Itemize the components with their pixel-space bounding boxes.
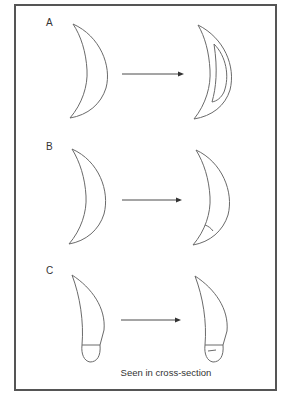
- crescent-after-a: [194, 25, 232, 119]
- arrow-c: [121, 318, 181, 323]
- panel-c: C: [46, 265, 227, 362]
- figure-caption: Seen in cross-section: [121, 367, 212, 378]
- tooth-before-c: [72, 275, 104, 362]
- arrow-b: [122, 198, 182, 203]
- tooth-after-c: [195, 276, 227, 362]
- crescent-before-b: [69, 149, 106, 244]
- arrow-a: [122, 72, 184, 77]
- panel-a: A: [46, 17, 232, 119]
- panel-label-a: A: [46, 17, 53, 28]
- crescent-after-b: [193, 150, 230, 245]
- panel-label-c: C: [46, 265, 53, 276]
- crescent-before-a: [70, 24, 108, 118]
- figure-frame: [15, 5, 276, 390]
- diagram-figure: A B C: [0, 0, 282, 402]
- panel-label-b: B: [46, 141, 53, 152]
- panel-b: B: [46, 141, 230, 245]
